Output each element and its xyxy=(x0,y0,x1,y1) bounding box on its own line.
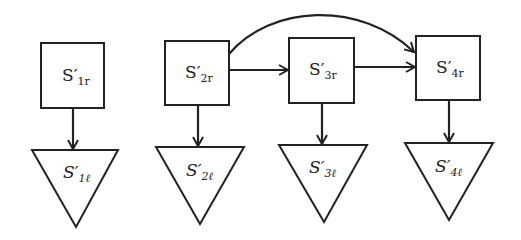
edges xyxy=(73,15,449,149)
node-s1l: S′1ℓ xyxy=(32,150,118,227)
node-s2r: S′2r xyxy=(165,41,229,105)
triangle-node xyxy=(156,147,244,224)
flow-diagram: S′1r S′2r S′3r S′4r S′1ℓ S′2ℓ S′3ℓ S′4ℓ xyxy=(0,0,521,240)
node-s1r: S′1r xyxy=(41,43,104,108)
node-s3l: S′3ℓ xyxy=(279,145,367,222)
node-s4r: S′4r xyxy=(416,36,480,100)
node-s3r: S′3r xyxy=(289,38,354,103)
node-s4l: S′4ℓ xyxy=(405,143,493,220)
node-s2l: S′2ℓ xyxy=(156,147,244,224)
triangle-node xyxy=(405,143,493,220)
